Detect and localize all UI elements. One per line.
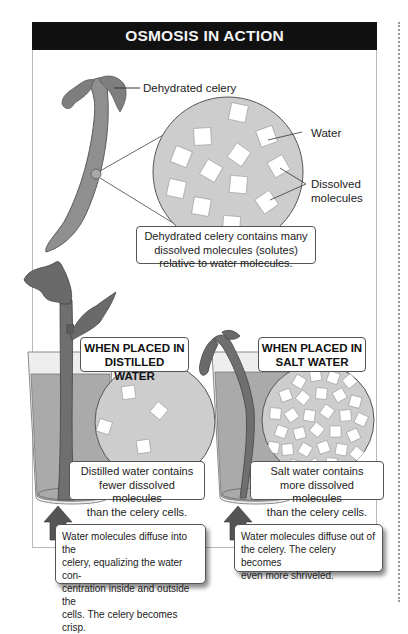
note-line: Water molecules diffuse out of	[241, 530, 376, 543]
caption-line: dissolved molecules (solutes)	[141, 244, 311, 258]
caption-line: than the celery cells.	[74, 506, 200, 520]
label-dissolved-line2: molecules	[311, 191, 363, 205]
caption-line: relative to water molecules.	[141, 257, 311, 271]
heading-line: SALT WATER	[261, 355, 363, 369]
distilled-water-heading: WHEN PLACED IN DISTILLED WATER	[80, 337, 189, 372]
caption-line: fewer dissolved molecules	[74, 479, 200, 506]
label-dissolved-line1: Dissolved	[311, 177, 363, 191]
caption-line: Salt water contains	[255, 465, 379, 479]
label-water: Water	[311, 126, 341, 140]
caption-line: than the celery cells.	[255, 506, 379, 520]
salt-water-result-note: Water molecules diffuse out of the celer…	[234, 524, 383, 572]
note-line: even more shriveled.	[241, 569, 376, 582]
caption-line: Dehydrated celery contains many	[141, 230, 311, 244]
distilled-water-result-note: Water molecules diffuse into the celery,…	[55, 524, 206, 584]
caption-line: more dissolved molecules	[255, 479, 379, 506]
salt-water-heading: WHEN PLACED IN SALT WATER	[258, 337, 366, 372]
note-line: the celery. The celery becomes	[241, 543, 376, 569]
caption-line: Distilled water contains	[74, 465, 200, 479]
salt-water-magnified-circle	[262, 364, 374, 476]
salt-water-caption-box: Salt water contains more dissolved molec…	[250, 461, 384, 500]
note-line: centration inside and outside the	[62, 582, 199, 608]
note-line: Water molecules diffuse into the	[62, 530, 199, 556]
magnified-celery-cell-circle	[153, 97, 306, 247]
heading-line: DISTILLED WATER	[83, 355, 186, 383]
note-line: celery, equalizing the water con-	[62, 556, 199, 582]
distilled-water-caption-box: Distilled water contains fewer dissolved…	[69, 461, 205, 500]
note-line: cells. The celery becomes crisp.	[62, 608, 199, 634]
dehydrated-caption-box: Dehydrated celery contains many dissolve…	[136, 226, 316, 264]
label-dehydrated-celery: Dehydrated celery	[143, 81, 236, 95]
heading-line: WHEN PLACED IN	[261, 341, 363, 355]
label-dissolved-molecules: Dissolved molecules	[311, 177, 363, 205]
heading-line: WHEN PLACED IN	[83, 341, 186, 355]
